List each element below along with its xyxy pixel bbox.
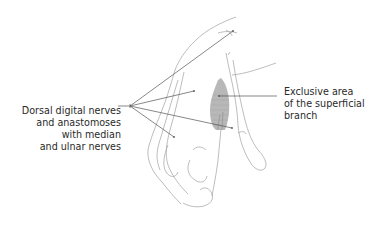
label-line: and ulnar nerves	[0, 141, 121, 153]
label-line: with median	[0, 129, 121, 141]
label-line: and anastomoses	[0, 117, 121, 129]
label-line: Dorsal digital nerves	[0, 105, 121, 117]
label-exclusive-area: Exclusive area of the superficial branch	[284, 86, 375, 122]
exclusive-area-shading	[210, 78, 229, 130]
label-dorsal-digital-nerves: Dorsal digital nerves and anastomoses wi…	[0, 105, 121, 153]
label-line: Exclusive area	[284, 86, 375, 98]
label-line: of the superficial	[284, 98, 375, 110]
label-line: branch	[284, 110, 375, 122]
